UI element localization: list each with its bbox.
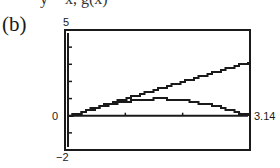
series-line-1 (68, 98, 248, 116)
plot-area (0, 0, 280, 168)
series-group (68, 62, 248, 116)
